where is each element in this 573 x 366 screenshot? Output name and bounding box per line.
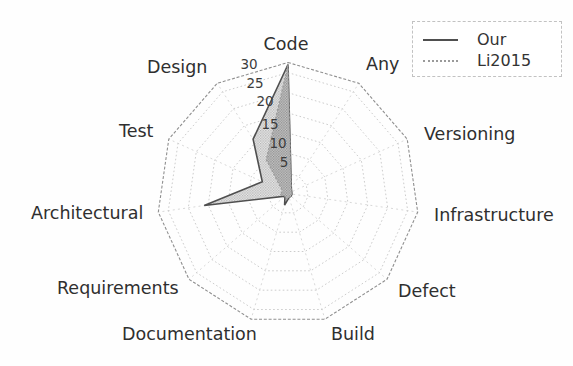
radial-tick-label-20: 20 <box>256 93 273 109</box>
category-label-architectural: Architectural <box>31 203 143 223</box>
radial-tick-label-25: 25 <box>246 75 263 91</box>
category-label-design: Design <box>147 57 207 77</box>
our-line-sample-icon <box>423 39 458 41</box>
radial-tick-label-10: 10 <box>269 135 286 151</box>
category-label-any: Any <box>366 54 399 74</box>
category-label-requirements: Requirements <box>57 278 179 298</box>
axis-spoke-defect <box>288 194 387 280</box>
li2015-line-sample-icon <box>423 60 458 62</box>
radar-figure: CodeAnyVersioningInfrastructureDefectBui… <box>0 0 573 366</box>
legend-box: Our Li2015 <box>412 21 562 77</box>
category-label-defect: Defect <box>398 281 456 301</box>
axis-spoke-requirements <box>189 194 288 280</box>
axis-spoke-infrastructure <box>288 194 418 213</box>
radial-tick-label-15: 15 <box>261 116 278 132</box>
legend-label-li2015: Li2015 <box>477 50 531 71</box>
axis-spoke-any <box>288 83 359 193</box>
category-label-code: Code <box>264 34 309 54</box>
category-label-infrastructure: Infrastructure <box>434 205 554 225</box>
category-label-test: Test <box>118 121 154 141</box>
legend-item-our: Our <box>423 29 553 50</box>
category-label-versioning: Versioning <box>424 124 515 144</box>
legend-item-li2015: Li2015 <box>423 50 553 71</box>
axis-spoke-documentation <box>251 194 288 320</box>
radial-tick-label-30: 30 <box>240 56 257 72</box>
category-label-build: Build <box>331 324 375 344</box>
radial-tick-label-5: 5 <box>280 154 289 170</box>
label-layer: CodeAnyVersioningInfrastructureDefectBui… <box>31 34 554 344</box>
category-label-documentation: Documentation <box>122 324 257 344</box>
legend-label-our: Our <box>477 29 506 50</box>
